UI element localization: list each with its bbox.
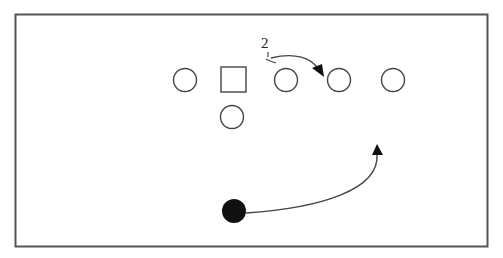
ball-carrier-filled-circle (222, 199, 246, 223)
pull-route-arrowhead-icon (312, 64, 324, 77)
player-circle-o3 (275, 69, 298, 92)
run-route-arrowhead-icon (372, 144, 383, 155)
player-circle-o5 (382, 69, 405, 92)
pull-route-line (271, 56, 318, 69)
player-square-center (221, 67, 246, 92)
run-route-line (246, 154, 377, 213)
count-label: 2 (261, 36, 269, 51)
player-circle-o1 (174, 69, 197, 92)
player-circle-qb (221, 106, 244, 129)
play-diagram (0, 0, 503, 258)
diagram-border (16, 15, 488, 247)
player-circle-o4 (328, 69, 351, 92)
